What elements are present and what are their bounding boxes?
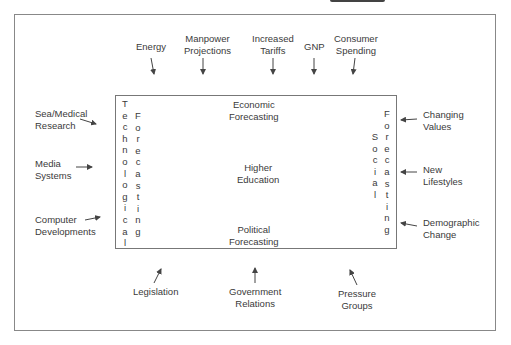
arrow-computer bbox=[85, 217, 100, 220]
arrows bbox=[0, 0, 511, 345]
arrow-consumer bbox=[353, 58, 355, 74]
arrow-energy bbox=[151, 58, 154, 74]
arrow-sea-medical bbox=[80, 119, 96, 124]
arrow-changing-values bbox=[401, 119, 417, 120]
arrow-pressure bbox=[350, 270, 357, 285]
arrow-legislation bbox=[154, 269, 161, 283]
arrow-demographic bbox=[401, 223, 417, 226]
